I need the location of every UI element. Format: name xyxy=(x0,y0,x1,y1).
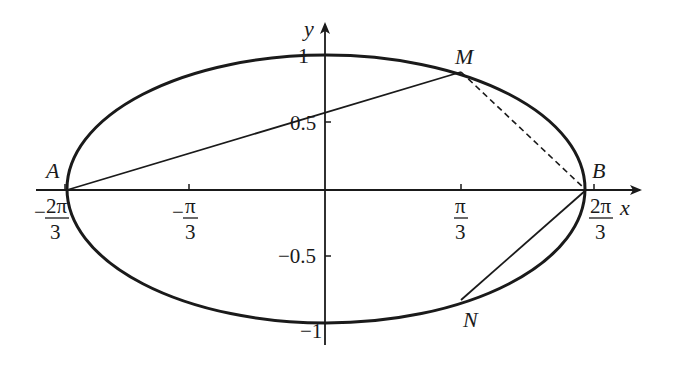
svg-text:2π: 2π xyxy=(46,194,68,218)
x-label-neg2pi3: − 2π 3 xyxy=(34,194,69,244)
svg-text:3: 3 xyxy=(455,220,466,244)
segment-AM xyxy=(67,72,461,190)
svg-text:3: 3 xyxy=(50,220,61,244)
svg-text:3: 3 xyxy=(185,220,196,244)
x-axis-label: x xyxy=(619,195,630,220)
segment-BN xyxy=(461,190,586,300)
x-label-pi3: π 3 xyxy=(454,194,468,244)
point-label-N: N xyxy=(462,307,479,332)
svg-text:−: − xyxy=(172,200,184,224)
svg-text:−: − xyxy=(34,200,46,224)
x-label-negpi3: − π 3 xyxy=(172,194,198,244)
y-label-0.5: 0.5 xyxy=(290,111,316,135)
y-label-neg0.5: −0.5 xyxy=(278,244,316,268)
y-label-neg1: −1 xyxy=(300,319,322,343)
svg-text:2π: 2π xyxy=(590,194,612,218)
svg-text:π: π xyxy=(455,194,466,218)
svg-text:3: 3 xyxy=(595,220,606,244)
y-label-1: 1 xyxy=(298,43,309,68)
ellipse-diagram: y x 1 0.5 −0.5 −1 − 2π 3 − π 3 π 3 2π 3 … xyxy=(0,0,676,366)
svg-text:π: π xyxy=(185,194,196,218)
segment-MB xyxy=(461,72,586,190)
x-label-2pi3: 2π 3 xyxy=(589,194,613,244)
point-label-B: B xyxy=(592,158,605,183)
point-label-M: M xyxy=(454,44,475,69)
ellipse-curve xyxy=(67,55,585,323)
y-axis-label: y xyxy=(302,16,314,41)
point-label-A: A xyxy=(44,158,60,183)
